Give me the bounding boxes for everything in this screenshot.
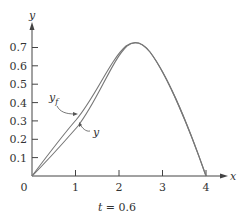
ytick-label: 0.3 [10, 115, 28, 128]
ytick-label: 0.5 [10, 78, 28, 91]
ytick-label: 0.7 [10, 41, 28, 54]
xtick-label: 4 [203, 181, 210, 194]
ytick-label: 0.2 [10, 133, 28, 146]
y-annotation: y [92, 126, 100, 139]
origin-label: 0 [21, 181, 28, 194]
xtick-label: 3 [159, 181, 166, 194]
y-axis-arrow-icon [30, 22, 35, 30]
xtick-label: 2 [116, 181, 123, 194]
yf-leader [57, 106, 75, 114]
x-axis-label: x [230, 170, 237, 183]
x-ticks [76, 170, 207, 176]
ytick-label: 0.4 [10, 97, 28, 110]
yf-annotation: yf [48, 91, 60, 106]
chart: 0.1 0.2 0.3 0.4 0.5 0.6 0.7 0 1 2 3 4 y … [0, 0, 241, 218]
y-ticks [32, 48, 38, 158]
x-axis-arrow-icon [220, 174, 228, 179]
ytick-label: 0.6 [10, 60, 28, 73]
curve-y [32, 43, 206, 176]
caption: t = 0.6 [98, 201, 136, 214]
y-axis-label: y [28, 9, 36, 22]
yf-leader-arrow-icon [73, 112, 78, 116]
ytick-label: 0.1 [10, 152, 28, 165]
xtick-label: 1 [72, 181, 79, 194]
